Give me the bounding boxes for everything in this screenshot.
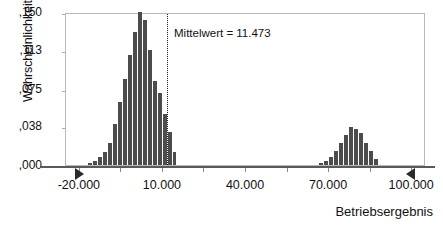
histogram-bar — [143, 20, 147, 165]
histogram-bar — [98, 157, 102, 165]
histogram-bar — [118, 102, 122, 165]
y-axis-tick-mark — [62, 91, 66, 92]
y-axis-tick-mark — [62, 128, 66, 129]
x-axis-tick-label: -20.000 — [58, 178, 100, 192]
histogram-bar — [148, 50, 152, 165]
y-axis-tick-mark — [62, 52, 66, 53]
histogram-bar — [163, 114, 167, 165]
histogram-bar — [88, 163, 92, 165]
x-axis-tick-mark — [370, 168, 371, 172]
histogram-bar — [319, 163, 323, 165]
x-axis-tick-mark — [328, 168, 329, 172]
y-axis-tick-label: ,000 — [8, 158, 42, 172]
y-axis-tick-label: ,038 — [8, 119, 42, 133]
x-axis-line — [41, 166, 435, 168]
histogram-bar — [354, 129, 358, 165]
histogram-bar — [334, 151, 338, 165]
x-axis-tick-label: 100.000 — [389, 178, 434, 192]
histogram-bar — [158, 93, 162, 165]
histogram-bar — [344, 135, 348, 165]
mean-annotation-label: Mittelwert = 11.473 — [174, 27, 271, 39]
histogram-bar — [103, 152, 107, 165]
histogram-bar — [324, 161, 328, 165]
mean-line — [167, 14, 168, 165]
x-axis-tick-mark — [120, 168, 121, 172]
histogram-bar — [93, 161, 97, 165]
x-axis-tick-mark — [162, 168, 163, 172]
histogram-figure: Wahrscheinlichkeit ,150,113,075,038,000 … — [0, 0, 443, 237]
y-axis-tick-labels: ,150,113,075,038,000 — [6, 0, 42, 237]
histogram-bar — [133, 32, 137, 165]
x-axis-tick-mark — [203, 168, 204, 172]
histogram-bar — [173, 152, 177, 165]
histogram-bar — [359, 133, 363, 165]
histogram-bar — [113, 124, 117, 165]
x-axis-tick-mark — [245, 168, 246, 172]
y-axis-tick-label: ,075 — [8, 82, 42, 96]
histogram-bar — [329, 157, 333, 165]
y-axis-tick-label: ,113 — [8, 43, 42, 57]
y-axis-tick-label: ,150 — [8, 5, 42, 19]
histogram-bar — [138, 12, 142, 165]
histogram-bar — [369, 151, 373, 165]
histogram-bar — [128, 55, 132, 165]
x-axis-tick-mark — [287, 168, 288, 172]
x-axis-tick-label: 70.000 — [309, 178, 347, 192]
histogram-bar — [364, 143, 368, 165]
x-axis-tick-label: 10.000 — [143, 178, 181, 192]
x-axis-label: Betriebsergebnis — [335, 204, 433, 219]
x-axis-tick-label: 40.000 — [226, 178, 264, 192]
histogram-bar — [108, 143, 112, 165]
histogram-bar — [123, 79, 127, 165]
histogram-bar — [168, 132, 172, 165]
histogram-bar — [339, 143, 343, 165]
histogram-bar — [349, 127, 353, 165]
y-axis-tick-mark — [62, 14, 66, 15]
histogram-bar — [374, 159, 378, 165]
histogram-bar — [153, 81, 157, 165]
